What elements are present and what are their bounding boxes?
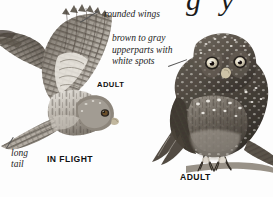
owl-artwork bbox=[0, 0, 273, 197]
illustration-plate: g y bbox=[0, 0, 273, 197]
annotation-long-tail-line-1: long bbox=[11, 148, 28, 159]
annotation-upperparts: brown to gray upperparts with white spot… bbox=[112, 33, 198, 68]
annotation-upperparts-line-1: brown to gray bbox=[112, 33, 198, 45]
figure-label-in-flight: IN FLIGHT bbox=[47, 154, 93, 164]
flying-owl-figure bbox=[0, 4, 119, 149]
annotation-upperparts-line-3: white spots bbox=[112, 56, 198, 68]
annotation-upperparts-line-2: upperparts with bbox=[112, 45, 198, 57]
annotation-long-tail: long tail bbox=[11, 148, 28, 170]
figure-label-adult-flight: ADULT bbox=[97, 80, 124, 89]
figure-label-adult-perched: ADULT bbox=[180, 172, 211, 182]
annotation-rounded-wings: rounded wings bbox=[104, 9, 160, 20]
annotation-long-tail-line-2: tail bbox=[11, 159, 28, 170]
